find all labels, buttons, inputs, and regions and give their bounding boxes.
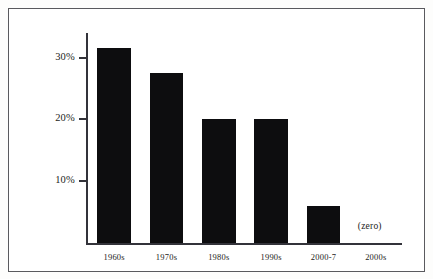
figure-border-frame: 10% 20% 30% 1960s 1970s xyxy=(8,8,425,272)
y-tick-20: 20% xyxy=(9,112,75,125)
x-axis-label-1960s: 1960s xyxy=(88,252,140,262)
x-axis-label-1970s: 1970s xyxy=(140,252,192,262)
y-tick-mark-30 xyxy=(79,57,87,59)
x-axis-label-2000-7: 2000-7 xyxy=(297,252,349,262)
y-tick-10: 10% xyxy=(9,174,75,187)
x-axis-label-2000s: 2000s xyxy=(350,252,402,262)
y-tick-mark-10 xyxy=(79,180,87,182)
bar-2000-7 xyxy=(307,206,340,243)
bars-layer xyxy=(88,33,402,243)
bar-1960s xyxy=(97,48,130,243)
y-tick-label-20: 20% xyxy=(35,112,75,123)
y-tick-label-30: 30% xyxy=(35,51,75,62)
x-axis-label-1990s: 1990s xyxy=(245,252,297,262)
y-tick-label-10: 10% xyxy=(35,174,75,185)
zero-annotation-label: (zero) xyxy=(358,221,382,231)
bar-1970s xyxy=(150,73,183,243)
figure-root: 10% 20% 30% 1960s 1970s xyxy=(0,0,433,279)
bar-1990s xyxy=(254,119,287,243)
y-tick-30: 30% xyxy=(9,51,75,64)
x-axis-line xyxy=(86,243,402,245)
bar-1980s xyxy=(202,119,235,243)
y-tick-mark-20 xyxy=(79,118,87,120)
plot-area: 10% 20% 30% 1960s 1970s xyxy=(9,9,426,273)
x-axis-label-1980s: 1980s xyxy=(193,252,245,262)
